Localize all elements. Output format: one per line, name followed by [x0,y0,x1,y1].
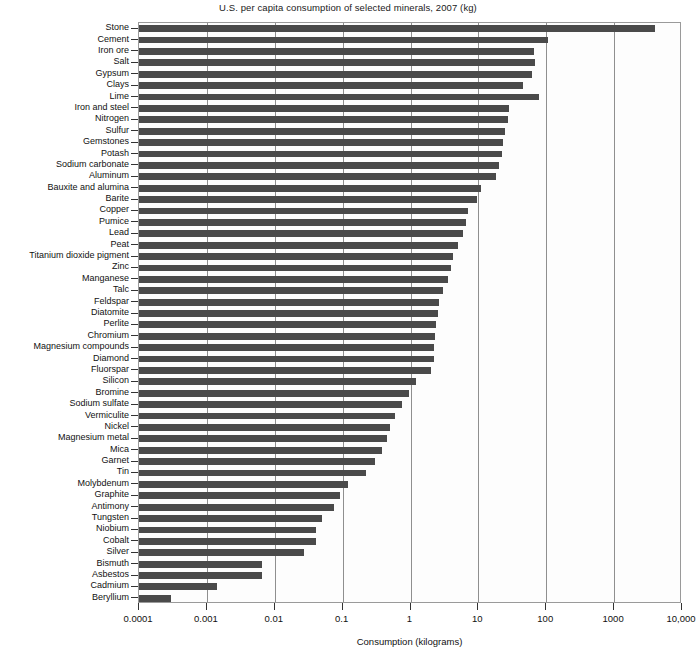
bar-row [139,217,680,228]
bar-row [139,445,680,456]
plot-area [138,22,681,603]
y-axis-tick [131,518,138,519]
y-axis-tick [131,119,138,120]
bar [139,208,468,215]
bar [139,321,436,328]
y-axis-tick-label: Diamond [93,354,129,363]
bar-row [139,148,680,159]
bar [139,447,382,454]
y-axis-tick [131,358,138,359]
y-axis-tick [131,563,138,564]
y-axis-tick [131,28,138,29]
bar [139,561,262,568]
y-axis-tick-label: Manganese [82,274,129,283]
x-axis-tick [410,603,411,610]
bar-row [139,137,680,148]
x-axis-tick [681,603,682,610]
y-axis-tick [131,164,138,165]
bar-row [139,228,680,239]
x-axis-tick-label: 0.01 [265,613,284,624]
y-axis-tick [131,461,138,462]
bar [139,242,458,249]
y-axis-tick [131,267,138,268]
y-axis-tick-label: Iron and steel [74,103,129,112]
x-axis-tick-label: 1 [407,613,412,624]
y-axis-tick-label: Sulfur [105,126,129,135]
bar [139,504,334,511]
bar [139,48,534,55]
bar [139,481,348,488]
bar [139,310,438,317]
y-axis-tick-label: Nitrogen [95,114,129,123]
bar-row [139,57,680,68]
bar [139,458,375,465]
y-axis-tick-label: Bauxite and alumina [47,183,129,192]
bar [139,299,439,306]
bar-row [139,308,680,319]
y-axis-tick-label: Antimony [91,502,129,511]
bar [139,25,655,32]
y-axis-tick-label: Fluorspar [91,365,129,374]
y-axis-tick [131,483,138,484]
x-axis-tick-label: 0.001 [194,613,218,624]
y-axis-tick-label: Salt [113,57,129,66]
y-axis-tick-label: Feldspar [94,297,129,306]
x-axis-tick-label: 1000 [603,613,624,624]
y-axis-tick [131,187,138,188]
bar-row [139,274,680,285]
y-axis-tick [131,529,138,530]
y-axis-labels: StoneCementIron oreSaltGypsumClaysLimeIr… [0,22,138,603]
bar-row [139,182,680,193]
bar-row [139,160,680,171]
x-axis-tick [477,603,478,610]
y-axis-tick-label: Graphite [94,490,129,499]
y-axis-tick [131,130,138,131]
y-axis-tick-label: Vermiculite [85,411,129,420]
y-axis-tick [131,540,138,541]
bar [139,470,366,477]
bar [139,139,503,146]
y-axis-tick-label: Beryllium [92,593,129,602]
y-axis-tick [131,256,138,257]
bar [139,59,535,66]
y-axis-tick-label: Titanium dioxide pigment [29,251,129,260]
y-axis-tick [131,199,138,200]
bar-row [139,285,680,296]
y-axis-tick-label: Clays [106,80,129,89]
bar [139,116,508,123]
y-axis-tick-label: Bismuth [96,559,129,568]
bar-row [139,467,680,478]
y-axis-tick-label: Silicon [102,376,129,385]
x-axis-tick [206,603,207,610]
y-axis-tick-label: Gypsum [95,69,129,78]
y-axis-tick-label: Iron ore [98,46,129,55]
y-axis-tick [131,404,138,405]
y-axis-tick-label: Nickel [104,422,129,431]
bar [139,173,496,180]
bar-row [139,23,680,34]
bar-row [139,490,680,501]
x-axis-tick-label: 10,000 [666,613,695,624]
bar [139,219,466,226]
bar [139,595,171,602]
bar [139,367,431,374]
bar [139,435,387,442]
y-axis-tick [131,426,138,427]
bar-row [139,410,680,421]
bar-row [139,262,680,273]
y-axis-tick [131,107,138,108]
y-axis-tick-label: Cadmium [90,581,129,590]
y-axis-tick-label: Peat [110,240,129,249]
bar [139,105,509,112]
y-axis-tick [131,575,138,576]
y-axis-tick-label: Perlite [103,319,129,328]
bar-row [139,376,680,387]
x-axis-tick [274,603,275,610]
bar [139,128,505,135]
y-axis-tick [131,244,138,245]
y-axis-tick-label: Silver [106,547,129,556]
y-axis-tick-label: Zinc [112,262,129,271]
bar-row [139,399,680,410]
y-axis-tick [131,597,138,598]
y-axis-tick-label: Stone [105,23,129,32]
